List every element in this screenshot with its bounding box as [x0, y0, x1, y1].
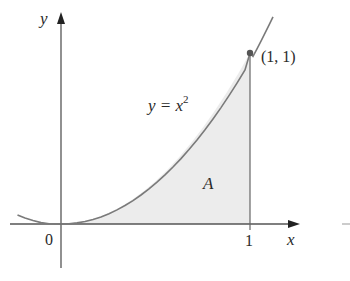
y-axis-arrow-icon: [57, 12, 65, 24]
region-label: A: [202, 174, 214, 193]
parabola-area-diagram: y x 0 1 (1, 1) A y = x2: [0, 0, 350, 281]
y-axis-label: y: [38, 9, 48, 28]
equation-label: y = x2: [146, 93, 189, 115]
origin-label: 0: [45, 231, 53, 248]
equation-exponent: 2: [183, 93, 189, 105]
point-label: (1, 1): [261, 48, 296, 66]
x-tick-label-1: 1: [245, 232, 253, 249]
x-axis-arrow-icon: [288, 220, 300, 228]
shaded-region-A: [61, 53, 250, 224]
point-marker: [247, 50, 253, 56]
x-axis-label: x: [286, 230, 295, 249]
equation-base: y = x: [146, 96, 184, 115]
